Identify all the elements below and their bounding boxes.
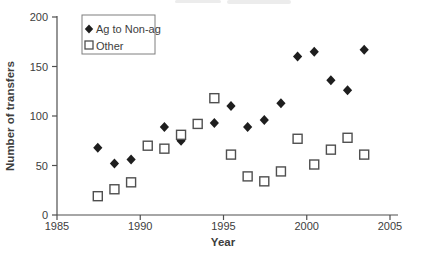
- point-ag-to-non-ag: [260, 115, 269, 125]
- y-axis-ticks: 050100150200: [30, 11, 57, 221]
- x-axis-title: Year: [211, 236, 236, 248]
- point-other: [160, 144, 169, 153]
- y-tick-label: 100: [30, 110, 48, 122]
- point-other: [193, 119, 202, 128]
- point-ag-to-non-ag: [160, 122, 169, 132]
- point-ag-to-non-ag: [93, 143, 102, 153]
- data-points: [93, 45, 369, 201]
- point-ag-to-non-ag: [210, 118, 219, 128]
- point-other: [210, 94, 219, 103]
- point-ag-to-non-ag: [293, 52, 302, 62]
- point-other: [326, 145, 335, 154]
- point-other: [293, 134, 302, 143]
- x-tick-label: 2005: [378, 220, 402, 232]
- point-ag-to-non-ag: [126, 155, 135, 165]
- scatter-chart-figure: 050100150200 19851990199520002005 Year N…: [0, 0, 421, 273]
- point-ag-to-non-ag: [276, 98, 285, 108]
- scatter-chart: 050100150200 19851990199520002005 Year N…: [0, 0, 421, 273]
- point-other: [143, 141, 152, 150]
- point-ag-to-non-ag: [226, 101, 235, 111]
- x-tick-label: 2000: [295, 220, 319, 232]
- point-other: [110, 185, 119, 194]
- point-ag-to-non-ag: [343, 85, 352, 95]
- legend-label-other: Other: [96, 40, 124, 52]
- scan-artifact: [227, 0, 291, 4]
- point-other: [260, 177, 269, 186]
- point-other: [343, 133, 352, 142]
- legend: Ag to Non-ag Other: [82, 15, 161, 54]
- point-other: [127, 178, 136, 187]
- point-ag-to-non-ag: [360, 45, 369, 55]
- point-ag-to-non-ag: [110, 159, 119, 169]
- point-other: [360, 150, 369, 159]
- point-other: [243, 172, 252, 181]
- point-other: [93, 192, 102, 201]
- y-tick-label: 50: [36, 160, 48, 172]
- point-other: [177, 130, 186, 139]
- scan-artifact: [175, 0, 221, 3]
- point-ag-to-non-ag: [243, 122, 252, 132]
- x-tick-label: 1985: [45, 220, 69, 232]
- x-tick-label: 1990: [128, 220, 152, 232]
- x-axis-ticks: 19851990199520002005: [45, 215, 402, 232]
- point-other: [310, 160, 319, 169]
- point-other: [276, 167, 285, 176]
- point-ag-to-non-ag: [326, 75, 335, 85]
- x-tick-label: 1995: [211, 220, 235, 232]
- y-tick-label: 200: [30, 11, 48, 23]
- point-other: [226, 150, 235, 159]
- square-legend-icon: [85, 41, 93, 49]
- y-axis-title: Number of transfers: [4, 61, 16, 171]
- y-tick-label: 150: [30, 61, 48, 73]
- legend-label-ag: Ag to Non-ag: [96, 23, 161, 35]
- point-ag-to-non-ag: [310, 47, 319, 57]
